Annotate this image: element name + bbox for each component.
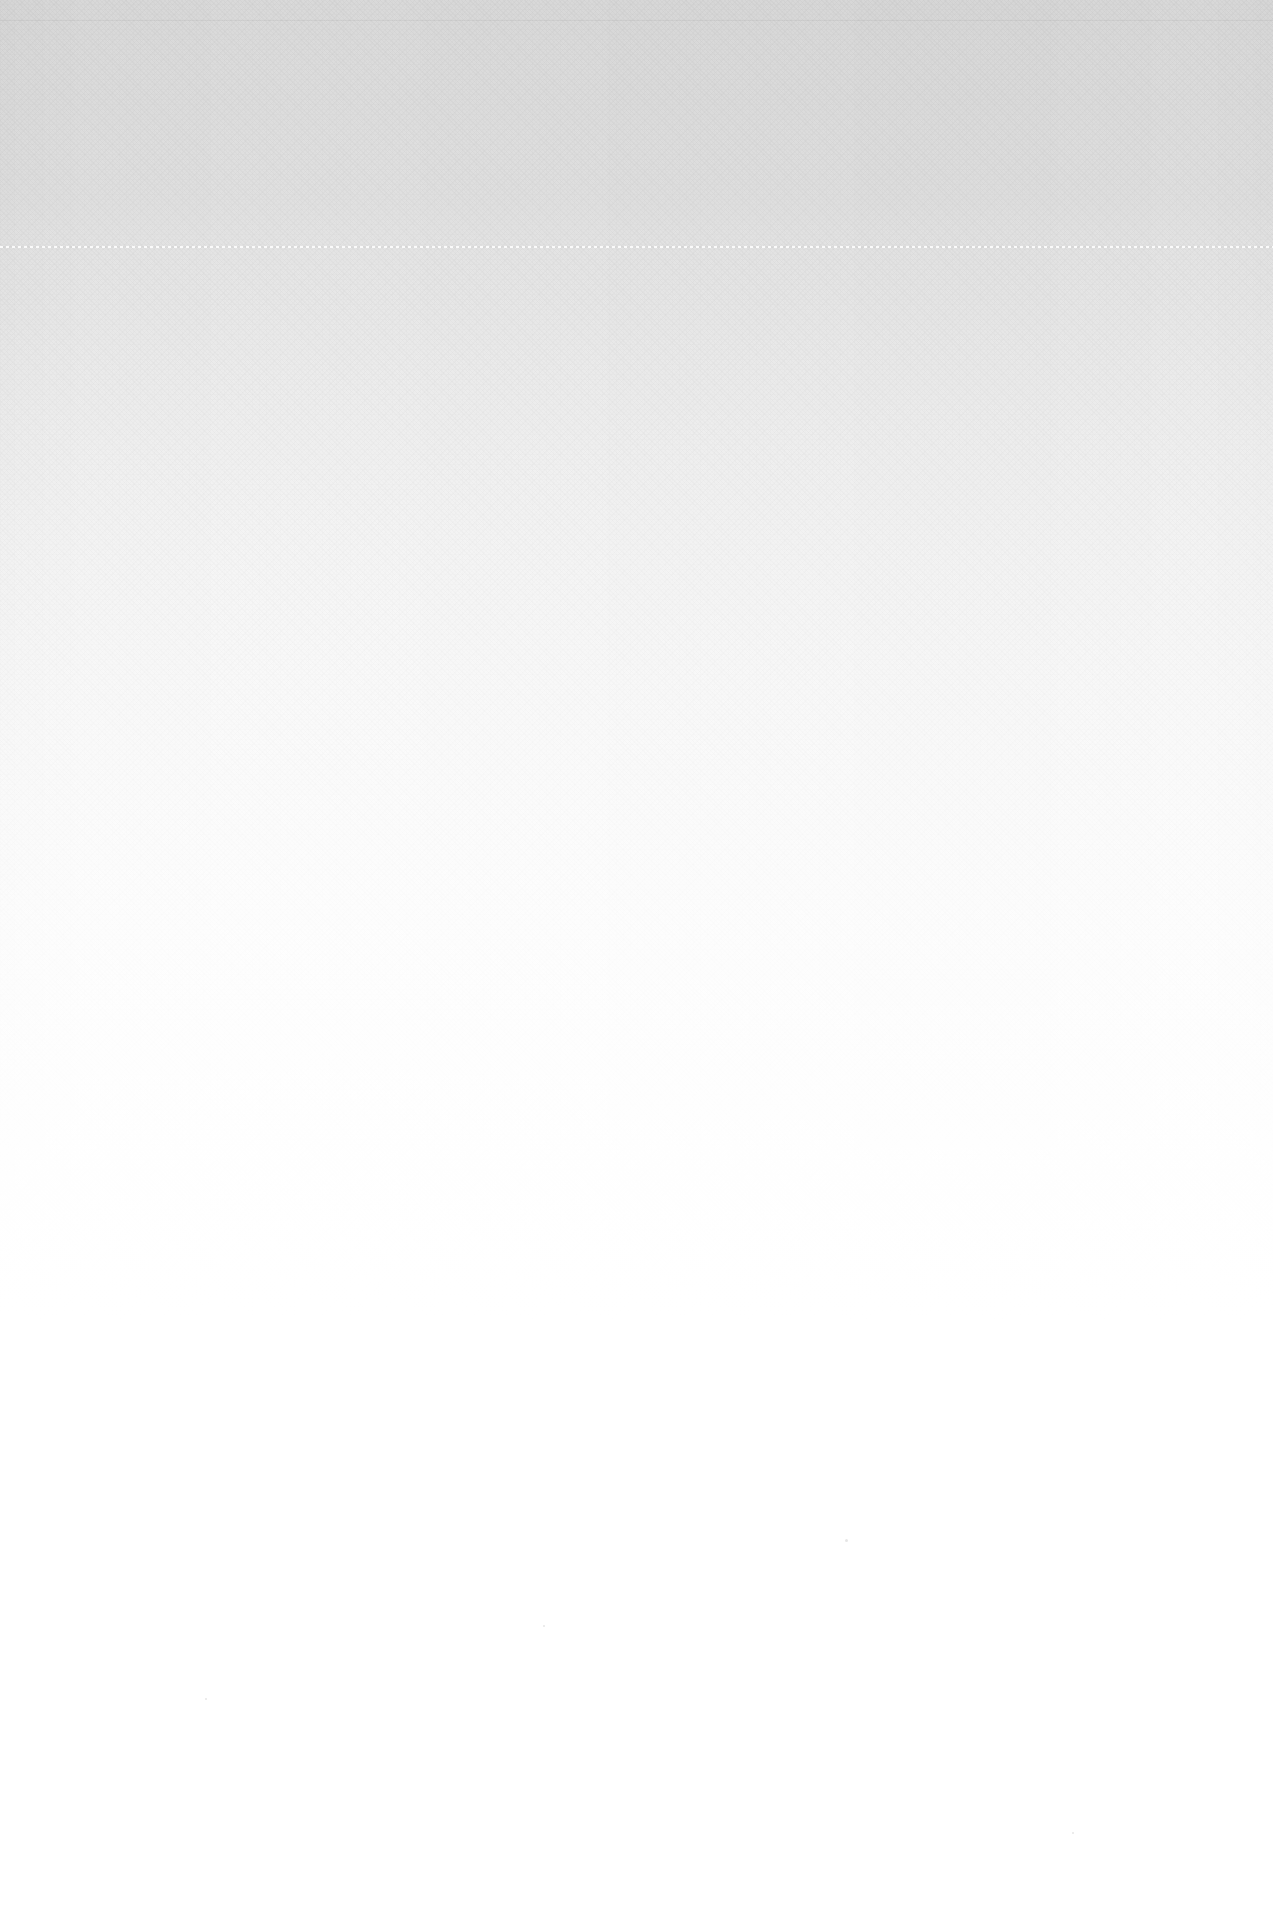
page-text-area (0, 0, 1273, 1920)
scanned-page (0, 0, 1273, 1920)
